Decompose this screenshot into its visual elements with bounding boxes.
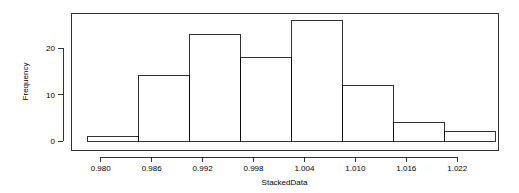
- histogram-bar: [139, 76, 190, 141]
- histogram-bar: [88, 136, 139, 141]
- y-axis-tick-label: 0: [51, 137, 56, 146]
- histogram-bar: [190, 34, 241, 141]
- y-axis-tick-label: 20: [46, 44, 55, 53]
- x-axis-tick-label: 1.010: [345, 164, 366, 173]
- y-axis: 01020: [46, 44, 63, 146]
- histogram-bar: [292, 20, 343, 141]
- x-axis-tick-label: 0.986: [142, 164, 163, 173]
- x-axis-tick-label: 0.980: [91, 164, 112, 173]
- x-axis-tick-label: 1.022: [447, 164, 468, 173]
- x-axis-tick-label: 1.016: [396, 164, 417, 173]
- histogram-plot: 010200.9800.9860.9920.9981.0041.0101.016…: [0, 0, 519, 193]
- x-axis: 0.9800.9860.9920.9981.0041.0101.0161.022: [91, 157, 468, 173]
- x-axis-tick-label: 0.998: [243, 164, 264, 173]
- histogram-bar: [445, 132, 496, 141]
- histogram-bar: [241, 57, 292, 141]
- y-axis-title: Frequency: [21, 63, 30, 101]
- histogram-bars: [88, 20, 495, 141]
- x-axis-title: StackedData: [262, 178, 308, 187]
- histogram-bar: [394, 122, 445, 141]
- histogram-bar: [343, 85, 394, 141]
- histogram-figure: 010200.9800.9860.9920.9981.0041.0101.016…: [0, 0, 519, 193]
- y-axis-tick-label: 10: [46, 91, 55, 100]
- x-axis-tick-label: 0.992: [193, 164, 214, 173]
- x-axis-tick-label: 1.004: [294, 164, 315, 173]
